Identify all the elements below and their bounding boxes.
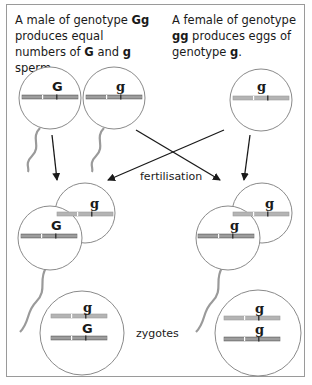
allele-label: G xyxy=(51,218,62,233)
zygotes-label: zygotes xyxy=(136,327,179,340)
sperm-G: G xyxy=(19,67,81,172)
allele-label: g xyxy=(255,301,264,316)
sperm-tail xyxy=(92,128,104,172)
chromosome xyxy=(51,336,107,341)
chromosome xyxy=(198,234,254,239)
zygote-left: g G xyxy=(40,291,124,375)
chromosome xyxy=(233,212,289,217)
sperm-tail xyxy=(28,128,40,172)
allele-label: g xyxy=(116,79,125,94)
allele-label: G xyxy=(52,79,63,94)
fertilisation-diagram: G g g fertilisation g G g g xyxy=(0,0,312,385)
egg-g: g xyxy=(230,69,292,131)
allele-label: g xyxy=(257,79,266,94)
allele-label: G xyxy=(82,321,93,336)
chromosome xyxy=(233,96,289,101)
chromosome xyxy=(86,95,142,100)
allele-label: g xyxy=(255,322,264,337)
allele-label: g xyxy=(230,218,239,233)
chromosome xyxy=(22,95,78,100)
chromosome xyxy=(57,212,113,217)
chromosome xyxy=(51,314,107,319)
allele-label: g xyxy=(83,300,92,315)
fertilisation-label: fertilisation xyxy=(140,170,202,183)
arrow-icon xyxy=(244,135,250,180)
zygote-right: g g xyxy=(215,290,301,376)
arrow-icon xyxy=(52,135,57,180)
chromosome xyxy=(21,234,77,239)
allele-label: g xyxy=(265,196,274,211)
sperm-g: g xyxy=(83,67,145,172)
chromosome xyxy=(224,337,280,342)
allele-label: g xyxy=(90,196,99,211)
chromosome xyxy=(224,316,280,321)
